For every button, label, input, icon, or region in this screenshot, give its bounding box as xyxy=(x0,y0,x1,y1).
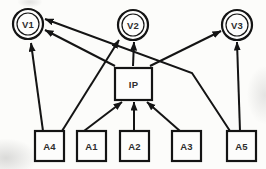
node-label-a4: A4 xyxy=(43,141,56,152)
node-label-a2: A2 xyxy=(128,141,141,152)
path-diagram: V1V2V3IPA4A1A2A3A5 xyxy=(0,0,266,169)
edge-ip-to-v2 xyxy=(133,42,134,66)
node-label-v1: V1 xyxy=(22,19,35,30)
node-v1: V1 xyxy=(13,9,43,39)
node-label-a5: A5 xyxy=(235,141,248,152)
node-label-ip: IP xyxy=(129,79,139,90)
node-a2: A2 xyxy=(120,131,149,161)
node-v2: V2 xyxy=(118,10,148,40)
diagram-canvas: V1V2V3IPA4A1A2A3A5 xyxy=(0,0,266,169)
node-a1: A1 xyxy=(77,131,106,161)
edge-a3-to-ip xyxy=(147,102,180,131)
node-label-v2: V2 xyxy=(127,20,139,31)
edge-a4-to-v1 xyxy=(31,43,43,131)
node-a5: A5 xyxy=(227,131,256,161)
edge-a1-to-ip xyxy=(84,102,122,131)
node-a3: A3 xyxy=(172,131,201,161)
node-label-a1: A1 xyxy=(85,141,98,152)
node-ip: IP xyxy=(115,68,152,100)
edge-a5-to-v3 xyxy=(237,42,240,131)
edge-ip-to-v1 xyxy=(45,30,115,66)
node-label-v3: V3 xyxy=(231,20,243,31)
node-label-a3: A3 xyxy=(180,141,193,152)
node-a4: A4 xyxy=(35,131,64,161)
node-v3: V3 xyxy=(222,10,252,40)
